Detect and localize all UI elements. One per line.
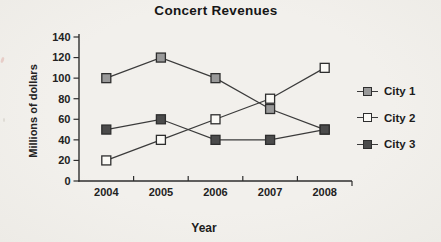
data-point-city-2 — [156, 135, 165, 144]
x-axis-label: Year — [191, 221, 216, 235]
data-point-city-3 — [102, 125, 111, 134]
legend-item-city-1: City 1 — [357, 82, 415, 100]
paper-speck — [3, 118, 5, 122]
data-point-city-1 — [102, 74, 111, 83]
data-point-city-2 — [320, 63, 329, 72]
data-point-city-1 — [266, 105, 275, 114]
x-tick-label: 2007 — [258, 186, 282, 198]
legend-swatch — [363, 87, 372, 96]
legend-label: City 2 — [384, 112, 415, 124]
data-point-city-2 — [266, 94, 275, 103]
y-tick-label: 40 — [58, 134, 70, 146]
legend-item-city-3: City 3 — [357, 135, 415, 153]
legend-marker-open-square-icon — [357, 112, 378, 123]
y-tick-label: 120 — [52, 51, 70, 63]
y-tick-label: 0 — [64, 175, 70, 187]
data-point-city-2 — [102, 156, 111, 165]
y-tick-label: 100 — [52, 72, 70, 84]
y-tick-label: 60 — [58, 113, 70, 125]
legend-label: City 1 — [384, 85, 415, 97]
x-tick-label: 2005 — [149, 186, 173, 198]
legend-swatch — [363, 113, 372, 122]
data-point-city-3 — [156, 115, 165, 124]
data-point-city-3 — [211, 135, 220, 144]
x-tick-label: 2006 — [203, 186, 227, 198]
data-point-city-3 — [266, 135, 275, 144]
legend-item-city-2: City 2 — [357, 109, 415, 127]
data-point-city-3 — [320, 125, 329, 134]
legend-label: City 3 — [384, 138, 415, 150]
x-tick-label: 2004 — [94, 186, 119, 198]
legend-marker-filled-square-icon — [357, 139, 378, 150]
data-point-city-2 — [211, 115, 220, 124]
y-tick-label: 140 — [52, 31, 70, 43]
x-tick-label: 2008 — [312, 186, 336, 198]
textbook-chart-figure: Concert Revenues 02040608010012014020042… — [0, 0, 441, 242]
y-tick-label: 20 — [58, 154, 70, 166]
legend-marker-filled-square-icon — [357, 86, 378, 97]
y-tick-label: 80 — [58, 93, 70, 105]
legend-swatch — [363, 140, 372, 149]
chart-legend: City 1 City 2 City 3 — [357, 82, 415, 153]
data-point-city-1 — [156, 53, 165, 62]
y-axis-label: Millions of dollars — [27, 64, 39, 158]
data-point-city-1 — [211, 74, 220, 83]
